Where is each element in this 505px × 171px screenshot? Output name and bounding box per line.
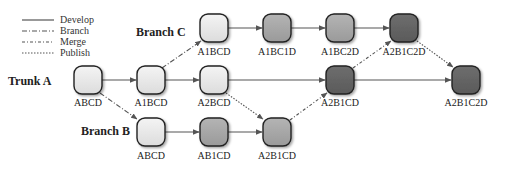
legend-branch-label: Branch xyxy=(60,25,89,36)
edge-branch-a1-b1 xyxy=(100,93,137,119)
node-c2[interactable]: A1BC1D xyxy=(258,14,296,57)
node-label: A2B1CD xyxy=(321,97,359,108)
legend-merge-label: Merge xyxy=(60,36,86,47)
node-label: A2B1C2D xyxy=(383,46,426,57)
lane-label-branch-b: Branch B xyxy=(81,124,130,138)
version-branching-diagram: Develop Branch Merge Publish Branch C Tr… xyxy=(0,0,505,171)
node-label: ABCD xyxy=(74,97,102,108)
edge-publish-a3-b3 xyxy=(226,93,263,119)
lane-label-trunk-a: Trunk A xyxy=(8,74,52,88)
node-a3[interactable]: A2BCD xyxy=(198,66,231,108)
node-label: A2B1CD xyxy=(258,150,296,161)
node-c1[interactable]: A1BCD xyxy=(198,14,231,57)
node-label: A1BC2D xyxy=(321,46,359,57)
node-b3[interactable]: A2B1CD xyxy=(258,118,296,161)
lane-label-branch-c: Branch C xyxy=(136,25,186,39)
node-label: AB1CD xyxy=(198,150,231,161)
node-label: A1BCD xyxy=(135,97,168,108)
node-label: A1BCD xyxy=(198,46,231,57)
legend: Develop Branch Merge Publish xyxy=(22,14,94,58)
node-c4[interactable]: A2B1C2D xyxy=(383,14,426,57)
node-a5[interactable]: A2B1C2D xyxy=(445,66,488,108)
legend-develop-label: Develop xyxy=(60,14,94,25)
node-a1[interactable]: ABCD xyxy=(74,66,102,108)
node-label: A1BC1D xyxy=(258,46,296,57)
edge-branch-a2-c1 xyxy=(162,41,201,68)
node-label: A2BCD xyxy=(198,97,231,108)
node-b2[interactable]: AB1CD xyxy=(198,118,231,161)
node-a2[interactable]: A1BCD xyxy=(135,66,168,108)
legend-publish-label: Publish xyxy=(60,47,90,58)
node-label: A2B1C2D xyxy=(445,97,488,108)
node-a4[interactable]: A2B1CD xyxy=(321,66,359,108)
node-label: ABCD xyxy=(137,150,165,161)
node-b1[interactable]: ABCD xyxy=(137,118,165,161)
node-c3[interactable]: A1BC2D xyxy=(321,14,359,57)
